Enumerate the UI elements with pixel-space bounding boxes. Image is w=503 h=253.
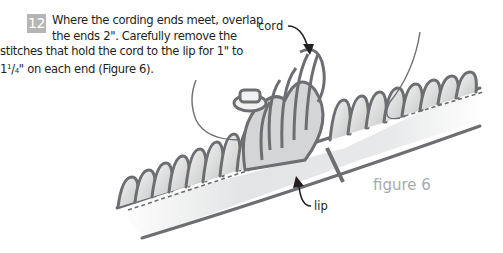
- figure-6-illustration: cord lip figure 6: [0, 0, 503, 253]
- figure-caption: figure 6: [373, 176, 431, 194]
- lip-label: lip: [314, 199, 328, 213]
- cord-label: cord: [258, 19, 283, 33]
- raised-cord: [234, 50, 324, 170]
